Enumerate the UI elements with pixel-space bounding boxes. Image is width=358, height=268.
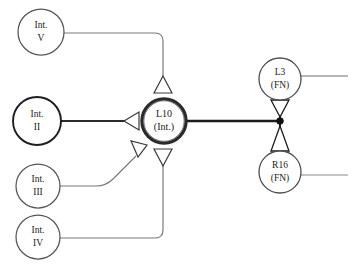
edge-int-v-to-l10 <box>64 33 163 76</box>
node-int-v-label-line2: V <box>38 33 45 43</box>
edge-int-iv-to-l10 <box>60 166 163 238</box>
node-r16-label-line2: (FN) <box>271 173 289 184</box>
node-l10-label-line1: L10 <box>156 108 172 119</box>
node-l10-label-line2: (Int.) <box>154 121 174 133</box>
network-diagram: Int. V Int. II Int. III Int. IV L10 (Int… <box>0 0 358 268</box>
node-r16[interactable]: R16 (FN) <box>259 151 301 193</box>
node-int-iii-label-line1: Int. <box>32 174 45 184</box>
node-int-ii[interactable]: Int. II <box>13 97 61 145</box>
node-int-iv[interactable]: Int. IV <box>16 215 60 259</box>
node-int-ii-label-line2: II <box>34 122 40 132</box>
node-l3-label-line2: (FN) <box>271 80 289 91</box>
node-int-iv-label-line1: Int. <box>32 225 45 235</box>
node-int-iv-label-line2: IV <box>33 238 43 248</box>
arrowhead-triangle-up-r16 <box>271 126 289 151</box>
junction-dot <box>277 118 284 125</box>
node-l3[interactable]: L3 (FN) <box>259 58 301 100</box>
diagram-canvas: Int. V Int. II Int. III Int. IV L10 (Int… <box>0 0 358 268</box>
node-l3-circle <box>259 58 301 100</box>
node-int-v-label-line1: Int. <box>35 20 48 30</box>
node-int-v[interactable]: Int. V <box>18 9 64 55</box>
node-l10[interactable]: L10 (Int.) <box>142 99 186 143</box>
node-int-v-circle <box>18 9 64 55</box>
node-int-ii-circle <box>13 97 61 145</box>
arrowhead-triangle-down-l10-bottom <box>154 149 172 166</box>
edge-int-iii-to-l10 <box>60 156 136 186</box>
node-int-iii[interactable]: Int. III <box>16 164 60 208</box>
node-l3-label-line1: L3 <box>275 67 286 77</box>
arrowhead-triangle-up-l10-top <box>154 76 172 93</box>
node-int-iii-label-line2: III <box>33 187 43 197</box>
node-r16-circle <box>259 151 301 193</box>
node-int-ii-label-line1: Int. <box>31 109 44 119</box>
node-int-iv-circle <box>16 215 60 259</box>
arrowhead-triangle-left-l10 <box>124 112 139 130</box>
arrowhead-triangle-down-l3 <box>271 100 289 117</box>
arrowhead-triangle-diagonal-l10 <box>131 141 147 157</box>
node-int-iii-circle <box>16 164 60 208</box>
node-r16-label-line1: R16 <box>272 160 288 170</box>
